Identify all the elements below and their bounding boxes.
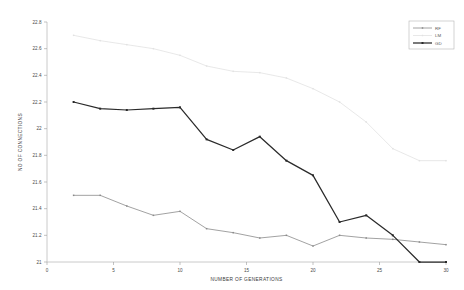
- legend-marker-lm: [422, 35, 424, 37]
- data-point: [232, 232, 234, 234]
- data-point: [285, 160, 287, 162]
- line-chart: 2121.221.421.621.82222.222.422.622.80510…: [0, 0, 464, 290]
- data-point: [153, 215, 155, 217]
- x-tick-label: 25: [377, 268, 383, 273]
- data-point: [259, 237, 261, 239]
- x-tick-label: 30: [443, 268, 449, 273]
- chart-container: 2121.221.421.621.82222.222.422.622.80510…: [0, 0, 464, 290]
- y-tick-label: 21: [36, 260, 42, 265]
- data-point: [99, 40, 101, 42]
- x-tick-label: 10: [177, 268, 183, 273]
- data-point: [73, 35, 75, 37]
- y-tick-label: 22.8: [33, 20, 42, 25]
- x-tick-label: 20: [310, 268, 316, 273]
- data-point: [99, 108, 101, 110]
- data-point: [126, 44, 128, 46]
- data-point: [286, 77, 288, 79]
- data-point: [365, 237, 367, 239]
- legend-label-lm: LM: [435, 33, 441, 38]
- data-point: [126, 205, 128, 207]
- data-point: [392, 148, 394, 150]
- y-tick-label: 21.2: [33, 233, 42, 238]
- data-point: [259, 72, 261, 74]
- y-tick-label: 22: [36, 126, 42, 131]
- x-tick-label: 0: [46, 268, 49, 273]
- data-point: [206, 65, 208, 67]
- legend: RFLMGD: [409, 21, 454, 49]
- y-axis-title: NO OF CONNECTIONS: [18, 113, 23, 171]
- x-axis-title: NUMBER OF GENERATIONS: [210, 277, 282, 282]
- legend-box: [409, 21, 454, 49]
- series-lm: [73, 35, 447, 162]
- y-tick-label: 21.4: [33, 206, 42, 211]
- data-point: [232, 149, 234, 151]
- x-tick-label: 5: [112, 268, 115, 273]
- y-tick-label: 22.4: [33, 73, 42, 78]
- series-rf: [73, 195, 447, 247]
- legend-marker-gd: [422, 42, 424, 44]
- data-point: [365, 121, 367, 123]
- data-point: [418, 261, 420, 263]
- data-point: [339, 101, 341, 103]
- data-point: [445, 244, 447, 246]
- data-point: [445, 160, 447, 162]
- data-point: [392, 234, 394, 236]
- data-point: [445, 261, 447, 263]
- data-point: [153, 48, 155, 50]
- y-tick-label: 22.2: [33, 100, 42, 105]
- data-point: [126, 109, 128, 111]
- series-line-lm: [74, 35, 446, 160]
- legend-marker-rf: [422, 27, 424, 29]
- data-point: [419, 241, 421, 243]
- legend-label-rf: RF: [435, 26, 441, 31]
- y-tick-label: 21.8: [33, 153, 42, 158]
- data-point: [179, 55, 181, 57]
- data-point: [99, 195, 101, 197]
- data-point: [259, 136, 261, 138]
- data-point: [419, 160, 421, 162]
- data-point: [73, 195, 75, 197]
- data-point: [286, 235, 288, 237]
- data-point: [365, 214, 367, 216]
- legend-label-gd: GD: [435, 41, 442, 46]
- x-tick-label: 15: [244, 268, 250, 273]
- data-point: [392, 239, 394, 241]
- data-point: [179, 106, 181, 108]
- data-point: [232, 71, 234, 73]
- data-point: [152, 108, 154, 110]
- data-point: [206, 138, 208, 140]
- data-point: [312, 174, 314, 176]
- data-point: [312, 245, 314, 247]
- data-point: [339, 235, 341, 237]
- y-tick-label: 21.6: [33, 180, 42, 185]
- data-point: [312, 88, 314, 90]
- data-point: [339, 221, 341, 223]
- data-point: [73, 101, 75, 103]
- y-tick-label: 22.6: [33, 46, 42, 51]
- data-point: [179, 211, 181, 213]
- data-point: [206, 228, 208, 230]
